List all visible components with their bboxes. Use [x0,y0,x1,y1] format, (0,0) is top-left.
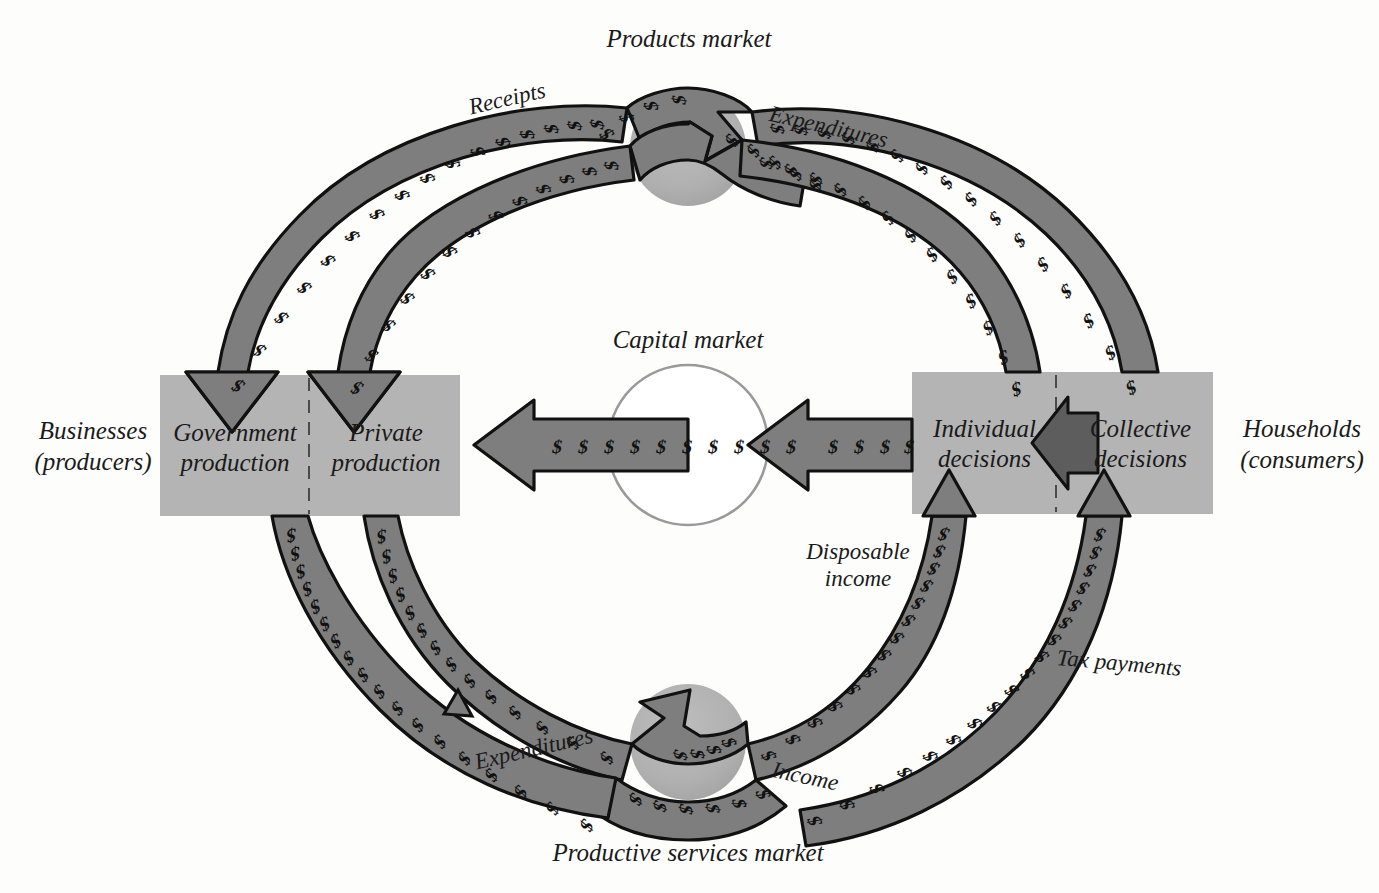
disposable-income-label: Disposable income [788,538,928,592]
svg-text:$: $ [315,252,340,270]
svg-text:$: $ [1081,308,1097,334]
svg-text:$: $ [292,278,317,297]
government-production-line1: Government [160,418,310,448]
svg-text:$: $ [576,815,597,837]
svg-text:$: $ [1010,228,1028,253]
private-production-line1: Private [311,418,461,448]
svg-text:$: $ [515,129,539,139]
businesses-label-line1: Businesses [18,415,168,446]
svg-text:$: $ [381,545,391,569]
collective-decisions-line2: decisions [1068,444,1213,474]
government-production-line2: production [160,448,310,478]
individual-decisions-line2: decisions [912,444,1057,474]
svg-text:$: $ [599,160,622,170]
svg-text:$: $ [364,206,390,223]
svg-text:$: $ [728,799,752,809]
svg-text:$: $ [1058,279,1075,305]
capital-inflow-arrow [748,400,917,490]
disposable-income-line2: income [788,565,928,592]
svg-text:$: $ [389,187,415,203]
productive-services-market-label: Productive services market [513,838,863,868]
svg-text:$: $ [639,101,663,111]
businesses-label-line2: (producers) [18,446,168,477]
private-production-cell[interactable]: Private production [311,418,461,478]
collective-decisions-cell[interactable]: Collective decisions [1068,414,1213,474]
svg-text:$: $ [961,188,980,212]
businesses-sector-label: Businesses (producers) [18,415,168,478]
svg-text:$: $ [269,308,293,328]
svg-text:$: $ [986,207,1005,232]
individual-decisions-cell[interactable]: Individual decisions [912,414,1057,474]
individual-decisions-line1: Individual [912,414,1057,444]
svg-text:$: $ [339,227,364,245]
svg-text:$: $ [1034,252,1051,277]
capital-market-label: Capital market [563,325,813,355]
households-sector-label: Households (consumers) [1222,413,1379,476]
collective-decisions-line1: Collective [1068,414,1213,444]
government-production-cell[interactable]: Government production [160,418,310,478]
households-label-line2: (consumers) [1222,444,1379,475]
private-production-line2: production [311,448,461,478]
products-market-label: Products market [564,24,814,54]
households-label-line1: Households [1222,413,1379,444]
svg-text:$: $ [577,166,601,176]
disposable-income-line1: Disposable [788,538,928,565]
circular-flow-diagram: $ [0,0,1379,893]
svg-text:$: $ [376,525,387,548]
